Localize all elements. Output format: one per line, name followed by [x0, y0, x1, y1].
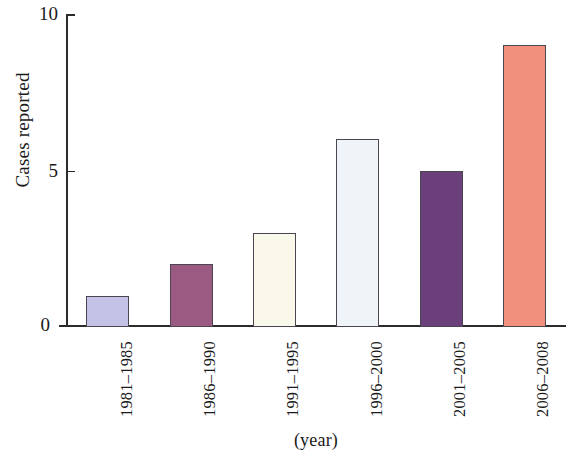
- x-label-2006–2008: 2006–2008: [533, 331, 553, 427]
- bar-1986–1990: [170, 264, 213, 327]
- x-label-1991–1995: 1991–1995: [283, 331, 303, 427]
- bars-container: [66, 14, 566, 327]
- x-axis-category-labels: 1981–19851986–19901991–19951996–20002001…: [66, 331, 566, 427]
- bar-2006–2008: [503, 45, 546, 327]
- x-label-1981–1985: 1981–1985: [117, 331, 137, 427]
- x-label-1986–1990: 1986–1990: [200, 331, 220, 427]
- plot-area: 10 5 0: [66, 14, 566, 327]
- x-label-2001–2005: 2001–2005: [450, 331, 470, 427]
- y-tick-label-0: 0: [41, 314, 51, 336]
- bar-1996–2000: [336, 139, 379, 327]
- y-tick-label-5: 5: [49, 159, 59, 181]
- bar-1991–1995: [253, 233, 296, 327]
- y-tick-label-10: 10: [39, 3, 58, 25]
- y-axis-title: Cases reported: [8, 0, 38, 300]
- bar-2001–2005: [420, 171, 463, 328]
- x-label-1996–2000: 1996–2000: [367, 331, 387, 427]
- bar-chart-figure: Cases reported 10 5 0 1981–19851986–1990…: [0, 0, 575, 458]
- x-axis-title: (year): [66, 430, 566, 451]
- bar-1981–1985: [86, 296, 129, 327]
